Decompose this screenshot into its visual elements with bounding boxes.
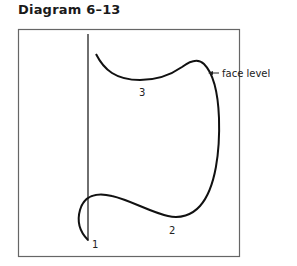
point-3-label: 3 xyxy=(139,87,145,98)
point-1-label: 1 xyxy=(92,239,98,250)
point-2-label: 2 xyxy=(169,225,175,236)
diagram-frame xyxy=(19,30,240,257)
movement-path-curve xyxy=(79,54,219,240)
face-level-label: face level xyxy=(222,68,270,79)
diagram-canvas: face level 3 2 1 xyxy=(0,0,297,266)
